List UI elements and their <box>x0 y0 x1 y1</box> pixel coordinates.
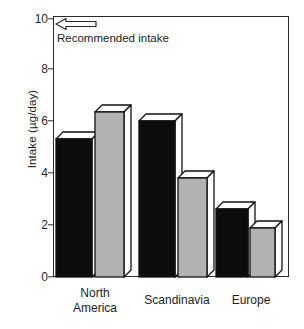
recommended-intake-arrow-icon <box>55 17 97 31</box>
y-axis-title: Intake (µg/day) <box>26 54 38 204</box>
x-category-label-north-america: North America <box>52 286 138 316</box>
y-tick-label-6: 6 <box>18 114 48 128</box>
y-tick-label-10: 10 <box>18 12 48 26</box>
y-tick-label-8: 8 <box>18 62 48 76</box>
x-category-label-scandinavia: Scandinavia <box>132 293 222 308</box>
plot-area-frame <box>53 16 289 277</box>
y-tick-label-4: 4 <box>18 166 48 180</box>
chart-figure: Intake (µg/day) 0 2 4 6 8 10 <box>0 0 304 329</box>
y-tick-label-0: 0 <box>18 270 48 284</box>
recommended-intake-label: Recommended intake <box>57 32 169 44</box>
x-category-label-europe: Europe <box>212 293 290 308</box>
y-tick-label-2: 2 <box>18 218 48 232</box>
